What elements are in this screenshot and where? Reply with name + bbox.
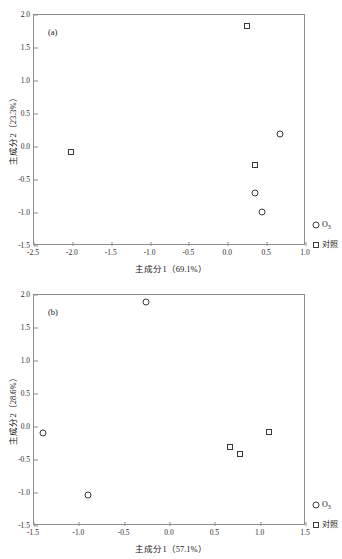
data-point-circle bbox=[276, 131, 283, 138]
y-tick bbox=[34, 180, 38, 181]
data-point-square bbox=[227, 444, 233, 450]
legend-label-ozone-text: O bbox=[322, 220, 328, 229]
square-marker-icon bbox=[311, 240, 320, 249]
y-tick-label: 1.0 bbox=[11, 356, 30, 365]
y-tick-label: 0.0 bbox=[11, 142, 30, 151]
x-tick bbox=[306, 522, 307, 526]
pca-figure: (a) 主成分1（69.1%） 主成分2（23.3%） O3 对照 -2.5-2… bbox=[0, 0, 342, 559]
x-tick bbox=[260, 522, 261, 526]
x-tick-label: -1.0 bbox=[72, 528, 84, 537]
y-tick bbox=[34, 460, 38, 461]
data-point-circle bbox=[40, 429, 47, 436]
x-tick-label: -0.5 bbox=[118, 528, 130, 537]
x-tick bbox=[228, 242, 229, 246]
x-tick-label: 1.5 bbox=[300, 528, 309, 537]
y-tick-label: 0.5 bbox=[11, 109, 30, 118]
data-point-square bbox=[266, 429, 272, 435]
legend-b: O3 对照 bbox=[311, 499, 338, 539]
x-tick bbox=[306, 242, 307, 246]
chart-panel-a: (a) 主成分1（69.1%） 主成分2（23.3%） O3 对照 -2.5-2… bbox=[0, 0, 342, 279]
circle-marker-icon bbox=[311, 220, 320, 229]
data-point-square bbox=[68, 149, 74, 155]
x-tick-label: 1.0 bbox=[255, 528, 264, 537]
y-tick-label: -1.5 bbox=[11, 241, 30, 250]
x-tick-label: -1.0 bbox=[144, 248, 156, 257]
plot-frame-b bbox=[33, 294, 305, 525]
y-tick bbox=[34, 361, 38, 362]
legend-label-ozone-sub: 3 bbox=[328, 224, 331, 230]
x-tick bbox=[124, 522, 125, 526]
x-axis-title-b: 主成分1（57.1%） bbox=[0, 542, 342, 554]
y-tick bbox=[34, 213, 38, 214]
circle-marker-icon bbox=[311, 500, 320, 509]
legend-item-ozone-a: O3 bbox=[311, 219, 338, 230]
data-point-square bbox=[252, 162, 258, 168]
y-tick-label: 1.0 bbox=[11, 76, 30, 85]
y-tick-label: -1.0 bbox=[11, 488, 30, 497]
x-tick-label: 0.5 bbox=[210, 528, 219, 537]
x-tick-label: 0.5 bbox=[261, 248, 270, 257]
legend-label-ozone-text: O bbox=[322, 500, 328, 509]
x-tick bbox=[267, 242, 268, 246]
y-tick bbox=[34, 246, 38, 247]
data-point-circle bbox=[252, 189, 259, 196]
y-tick bbox=[34, 394, 38, 395]
y-tick-label: 1.5 bbox=[11, 43, 30, 52]
y-tick bbox=[34, 147, 38, 148]
panel-label-a: (a) bbox=[48, 27, 57, 37]
legend-item-control-b: 对照 bbox=[311, 519, 338, 530]
y-tick-label: 0.0 bbox=[11, 422, 30, 431]
legend-label-control: 对照 bbox=[322, 240, 338, 249]
data-point-circle bbox=[259, 209, 266, 216]
y-tick-label: 1.5 bbox=[11, 323, 30, 332]
y-tick bbox=[34, 526, 38, 527]
x-tick bbox=[72, 242, 73, 246]
legend-label-ozone-sub: 3 bbox=[328, 504, 331, 510]
data-point-circle bbox=[85, 491, 92, 498]
y-tick bbox=[34, 328, 38, 329]
legend-label-ozone: O3 bbox=[322, 220, 331, 230]
legend-label-control: 对照 bbox=[322, 520, 338, 529]
y-tick-label: 2.0 bbox=[11, 10, 30, 19]
x-tick-label: 0.0 bbox=[164, 528, 173, 537]
y-tick bbox=[34, 48, 38, 49]
data-point-square bbox=[244, 23, 250, 29]
plot-canvas-b bbox=[34, 295, 304, 524]
x-tick bbox=[170, 522, 171, 526]
legend-label-ozone: O3 bbox=[322, 500, 331, 510]
x-tick bbox=[215, 522, 216, 526]
y-tick bbox=[34, 295, 38, 296]
y-tick-label: -1.0 bbox=[11, 208, 30, 217]
x-tick-label: -0.5 bbox=[182, 248, 194, 257]
legend-item-control-a: 对照 bbox=[311, 239, 338, 250]
x-tick-label: 0.0 bbox=[223, 248, 232, 257]
x-tick-label: -2.0 bbox=[66, 248, 78, 257]
plot-frame-a bbox=[33, 14, 305, 245]
x-tick bbox=[79, 522, 80, 526]
data-point-circle bbox=[143, 298, 150, 305]
y-tick bbox=[34, 81, 38, 82]
legend-item-ozone-b: O3 bbox=[311, 499, 338, 510]
y-tick bbox=[34, 114, 38, 115]
x-tick bbox=[150, 242, 151, 246]
y-tick bbox=[34, 427, 38, 428]
x-tick bbox=[111, 242, 112, 246]
y-tick-label: -1.5 bbox=[11, 521, 30, 530]
y-tick-label: -0.5 bbox=[11, 175, 30, 184]
y-axis-title-a: 主成分2（23.3%） bbox=[6, 79, 18, 179]
legend-a: O3 对照 bbox=[311, 219, 338, 259]
x-tick-label: -1.5 bbox=[105, 248, 117, 257]
y-tick bbox=[34, 15, 38, 16]
panel-label-b: (b) bbox=[48, 307, 58, 317]
square-marker-icon bbox=[311, 520, 320, 529]
y-tick-label: -0.5 bbox=[11, 455, 30, 464]
x-axis-title-a: 主成分1（69.1%） bbox=[0, 262, 342, 274]
chart-panel-b: (b) 主成分1（57.1%） 主成分2（28.6%） O3 对照 -1.5-1… bbox=[0, 280, 342, 559]
x-tick-label: 1.0 bbox=[300, 248, 309, 257]
y-tick bbox=[34, 493, 38, 494]
plot-canvas-a bbox=[34, 15, 304, 244]
data-point-square bbox=[237, 451, 243, 457]
y-tick-label: 2.0 bbox=[11, 290, 30, 299]
y-tick-label: 0.5 bbox=[11, 389, 30, 398]
x-tick bbox=[189, 242, 190, 246]
